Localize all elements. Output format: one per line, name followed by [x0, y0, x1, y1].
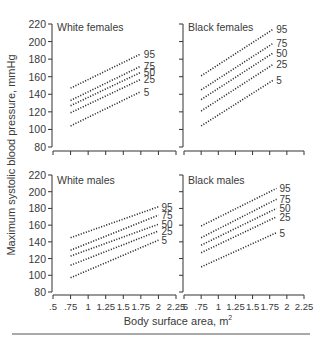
percentile-line-50: [71, 224, 159, 256]
y-tick-label: 100: [28, 123, 46, 135]
percentile-label: 5: [276, 75, 282, 86]
y-tick-label: 200: [28, 186, 46, 198]
y-tick-label: 220: [28, 18, 46, 30]
percentile-label: 25: [276, 59, 288, 70]
percentile-line-75: [201, 199, 276, 237]
panel-title: Black females: [188, 21, 253, 33]
percentile-line-50: [201, 208, 276, 245]
y-tick-label: 180: [28, 202, 46, 214]
x-tick-label: 2: [156, 301, 161, 312]
panel-white-males: 80100120140160180200220.5.7511.251.51.75…: [28, 169, 185, 312]
percentile-label: 95: [280, 183, 292, 194]
x-tick-label: .75: [64, 301, 77, 312]
percentile-label: 5: [280, 228, 286, 239]
percentile-line-25: [71, 231, 159, 265]
x-tick-label: 2: [284, 301, 289, 312]
percentile-line-95: [71, 207, 159, 238]
y-tick-label: 80: [34, 286, 46, 298]
x-axis-label-text: Body surface area, m: [124, 315, 229, 327]
percentile-line-5: [201, 233, 276, 267]
y-tick-label: 180: [28, 53, 46, 65]
x-axis-label: Body surface area, m2: [124, 314, 233, 327]
x-tick-label: 1.5: [117, 301, 130, 312]
percentile-line-50: [71, 72, 141, 105]
percentile-label: 5: [161, 235, 167, 246]
y-tick-label: 140: [28, 236, 46, 248]
percentile-line-25: [201, 217, 276, 253]
y-tick-label: 100: [28, 269, 46, 281]
panels: 80100120140160180200220White females9575…: [28, 18, 313, 312]
x-tick-label: 1.75: [132, 301, 151, 312]
percentile-line-95: [71, 54, 141, 88]
x-tick-label: 1.25: [226, 301, 245, 312]
percentile-label: 95: [276, 24, 288, 35]
panel-black-males: .5.7511.251.51.7522.25Black males9575502…: [179, 174, 313, 312]
percentile-line-25: [201, 64, 273, 111]
y-axis-label: Maximum systolic blood pressure, mmHg: [5, 54, 17, 255]
percentile-label: 50: [276, 48, 288, 59]
percentile-line-95: [201, 29, 273, 76]
x-tick-label: .75: [195, 301, 208, 312]
y-tick-label: 220: [28, 169, 46, 181]
percentile-line-5: [71, 240, 159, 278]
panel-title: White males: [57, 174, 115, 186]
figure: Maximum systolic blood pressure, mmHg 80…: [0, 0, 327, 344]
x-tick-label: .5: [49, 301, 57, 312]
y-tick-label: 120: [28, 106, 46, 118]
x-tick-label: 1.75: [260, 301, 279, 312]
percentile-line-95: [201, 188, 276, 226]
y-tick-label: 120: [28, 253, 46, 265]
percentile-label: 25: [280, 212, 292, 223]
x-tick-label: 1.25: [96, 301, 115, 312]
y-tick-label: 160: [28, 71, 46, 83]
y-tick-label: 160: [28, 219, 46, 231]
x-tick-label: 1: [85, 301, 90, 312]
panel-title: Black males: [188, 174, 245, 186]
percentile-label: 25: [144, 74, 156, 85]
x-tick-label: 1: [216, 301, 221, 312]
x-tick-label: 2.25: [295, 301, 314, 312]
x-axis-label-superscript: 2: [228, 314, 232, 321]
panel-white-females: 80100120140160180200220White females9575…: [28, 18, 176, 155]
y-tick-label: 200: [28, 36, 46, 48]
x-tick-label: 1.5: [246, 301, 259, 312]
x-tick-label: .5: [180, 301, 188, 312]
y-tick-label: 140: [28, 88, 46, 100]
percentile-label: 5: [144, 87, 150, 98]
percentile-line-50: [201, 53, 273, 100]
percentile-line-75: [201, 43, 273, 90]
y-tick-label: 80: [34, 141, 46, 153]
percentile-label: 95: [144, 49, 156, 60]
panel-title: White females: [57, 21, 124, 33]
panel-black-females: Black females957550255: [179, 21, 304, 155]
